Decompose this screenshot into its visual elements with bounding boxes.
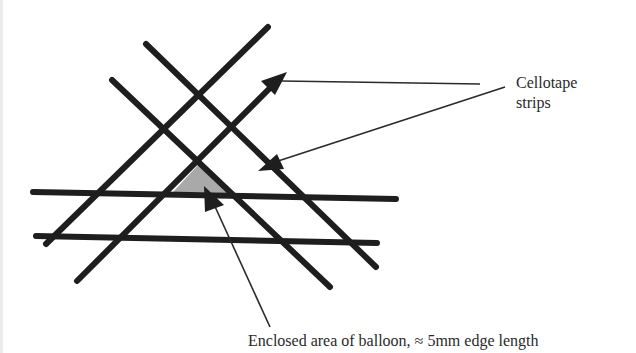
leader-line-top [282,81,480,84]
diagram-canvas: Cellotape strips Enclosed area of balloo… [0,0,636,353]
strip-diagonal-b [146,44,376,267]
strip-diagonal-a [112,80,330,287]
leader-line-middle [272,87,505,163]
cellotape-label-line1: Cellotape [516,73,577,93]
enclosed-area-label: Enclosed area of balloon, ≈ 5mm edge len… [248,331,538,351]
strip-horizontal-2 [36,236,377,243]
diagram-svg [0,0,636,353]
cellotape-label-line2: strips [516,93,577,113]
cellotape-label: Cellotape strips [516,73,577,113]
strip-diagonal-c [46,27,268,244]
